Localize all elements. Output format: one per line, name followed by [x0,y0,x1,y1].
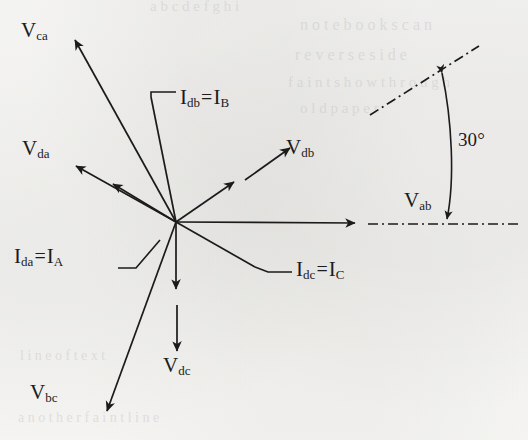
label-i-db: Idb=IB [180,87,229,109]
label-v-db: Vdb [286,137,314,159]
label-i-dc: Idc=IC [296,259,345,281]
label-i-db-equals: = [200,86,213,108]
leader-i-dc [255,267,292,272]
label-i-db-sub: db [187,95,200,110]
vector-i-dc [176,222,255,267]
label-v-ab: Vab [404,190,432,212]
label-i-dc-sub: dc [303,267,315,282]
label-v-da: Vda [22,138,50,160]
reference-line-inclined [370,46,479,115]
angle-arc-30deg [442,73,452,219]
label-i-da-equals: = [33,245,46,267]
label-i-db-sub2: B [221,95,230,110]
label-i-db-base2: I [213,85,220,109]
label-v-da-sub: da [37,146,49,161]
label-v-ca-base: V [21,18,36,42]
label-i-da-sub: da [21,254,33,269]
label-v-ca: Vca [21,20,48,42]
label-i-da-base2: I [47,244,54,268]
vector-i-da [113,184,176,222]
label-v-ab-base: V [404,188,419,212]
label-angle-30: 30° [458,130,485,149]
label-i-dc-sub2: C [336,267,345,282]
label-i-da-sub2: A [54,254,63,269]
leader-i-db [151,92,176,97]
label-v-bc-sub: bc [45,390,57,405]
label-v-bc-base: V [30,380,45,404]
vector-v-db [176,182,234,222]
label-v-ca-sub: ca [36,28,48,43]
label-v-da-base: V [22,136,37,160]
label-i-dc-base2: I [329,257,336,281]
label-v-ab-sub: ab [419,198,431,213]
phasor-diagram-figure: a b c d e f g h i n o t e b o o k s c a … [0,0,528,440]
label-v-dc-sub: dc [178,363,190,378]
vector-drawing [0,0,528,440]
vector-i-db [151,97,176,222]
label-v-db-base: V [286,135,301,159]
leader-i-da [118,240,160,268]
vector-v-ab [176,222,355,223]
label-i-dc-equals: = [315,258,328,280]
label-v-dc: Vdc [163,355,191,377]
label-i-da: Ida=IA [14,246,63,268]
label-v-db-sub: db [301,145,314,160]
vector-v-db-outer [245,148,290,180]
vector-v-bc [107,222,176,411]
vector-v-ca [75,40,176,222]
label-v-bc: Vbc [30,382,58,404]
label-v-dc-base: V [163,353,178,377]
label-angle-30-text: 30° [458,129,485,150]
